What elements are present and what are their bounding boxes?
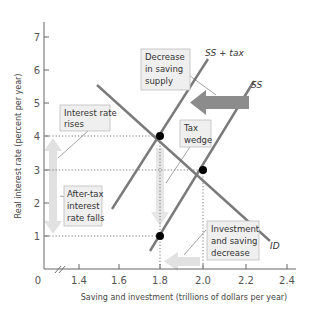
pale-double-arrow [44, 138, 62, 234]
svg-text:rises: rises [64, 119, 85, 129]
pale-down-arrow [151, 148, 169, 226]
svg-text:5: 5 [34, 98, 40, 109]
svg-text:2.4: 2.4 [279, 275, 295, 286]
point-1-8-4 [156, 132, 164, 140]
callout-tax-wedge: Tax wedge [180, 120, 212, 147]
callout-interest-rate-rises: Interest rate rises [60, 105, 117, 131]
svg-text:1.4: 1.4 [71, 275, 87, 286]
svg-text:interest: interest [67, 201, 100, 211]
y-tick-labels: 7 6 5 4 3 2 1 [34, 32, 40, 242]
svg-text:2.2: 2.2 [238, 275, 254, 286]
label-ss-tax: SS + tax [205, 48, 244, 58]
svg-text:1.8: 1.8 [152, 275, 168, 286]
svg-text:decrease: decrease [211, 248, 250, 258]
x-tick-labels: 0 1.4 1.6 1.8 2.0 2.2 2.4 [35, 275, 295, 286]
supply-demand-chart: 7 6 5 4 3 2 1 0 1.4 1.6 1.8 2.0 2.2 2.4 … [0, 0, 318, 316]
callout-leaders [58, 70, 216, 255]
svg-text:1: 1 [34, 231, 40, 242]
svg-text:Decrease: Decrease [145, 52, 185, 62]
label-ss: SS [251, 80, 262, 90]
svg-text:wedge: wedge [184, 135, 212, 145]
svg-text:rate falls: rate falls [67, 213, 105, 223]
callout-investment-saving-decrease: Investment and saving decrease [207, 221, 260, 260]
svg-text:supply: supply [145, 76, 173, 86]
x-axis-title: Saving and investment (trillions of doll… [81, 293, 287, 302]
shift-left-arrow [190, 90, 249, 115]
svg-text:Investment: Investment [211, 224, 260, 234]
svg-text:7: 7 [34, 32, 40, 43]
svg-text:1.6: 1.6 [111, 275, 127, 286]
point-1-8-1 [156, 232, 164, 240]
label-id: ID [270, 241, 280, 251]
svg-text:Tax: Tax [183, 123, 198, 133]
svg-text:2: 2 [34, 198, 40, 209]
callout-after-tax-rate-falls: After-tax interest rate falls [64, 186, 105, 226]
y-axis-title: Real interest rate (percent per year) [14, 74, 23, 219]
svg-text:Interest rate: Interest rate [64, 108, 117, 118]
svg-text:2.0: 2.0 [195, 275, 211, 286]
callout-decrease-saving-supply: Decrease in saving supply [141, 49, 190, 90]
point-2-0-3 [199, 166, 207, 174]
pale-left-arrow [164, 252, 200, 271]
svg-text:4: 4 [34, 131, 40, 142]
svg-text:After-tax: After-tax [67, 189, 104, 199]
svg-text:3: 3 [34, 165, 40, 176]
svg-text:in saving: in saving [145, 64, 183, 74]
svg-text:6: 6 [34, 65, 40, 76]
svg-text:and saving: and saving [211, 236, 258, 246]
svg-text:0: 0 [35, 275, 41, 286]
